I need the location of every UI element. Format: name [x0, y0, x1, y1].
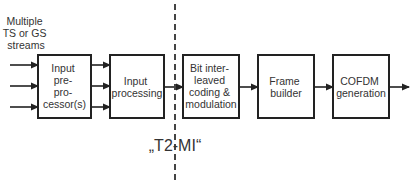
block-input-processing: Input processing [110, 55, 164, 118]
block-bicm: Bit inter- leaved coding & modulation [183, 55, 239, 118]
block-frame-builder: Frame builder [258, 55, 314, 118]
input-streams-label: Multiple TS or GS streams [3, 15, 50, 51]
svg-text:Bit inter- leaved: Bit inter- leaved coding & modulation [185, 62, 237, 110]
t2-mi-label: „T2-MI“ [149, 137, 201, 154]
preprocessor-output-arrows [91, 65, 110, 107]
block-input-preprocessor: Input pre- pro- cessor(s) [38, 55, 91, 118]
input-arrows [10, 65, 38, 107]
block-cofdm-generation: COFDM generation [333, 55, 389, 118]
svg-text:Frame builder: Frame builder [269, 75, 302, 99]
svg-text:COFDM generation: COFDM generation [336, 75, 386, 99]
t2-transmitter-block-diagram: Multiple TS or GS streams Input pre- pro… [0, 0, 413, 183]
